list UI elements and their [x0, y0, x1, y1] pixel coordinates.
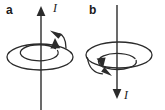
panel-b-current-label: I [124, 89, 128, 101]
panel-a-inner-loop-arrowhead [50, 38, 60, 49]
panel-b-outer-field-loop [86, 42, 152, 68]
panel-a-outer-loop-tail [60, 34, 67, 48]
panel-a-outer-field-loop [7, 44, 73, 70]
panel-a-label: a [6, 4, 13, 16]
panel-b-label: b [89, 4, 96, 16]
panel-b: b I [83, 0, 165, 110]
panel-a: a I [0, 0, 82, 110]
panel-a-current-arrowhead-up [37, 6, 46, 16]
physics-figure-right-hand-rule: a I b I [0, 0, 165, 110]
panel-b-current-arrowhead-down [113, 89, 122, 99]
panel-a-current-label: I [53, 2, 57, 14]
